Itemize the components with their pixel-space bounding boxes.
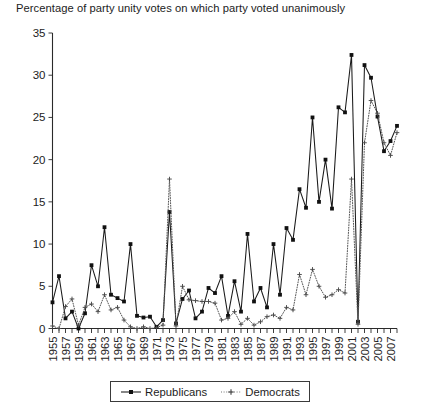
x-tick-label: 2003 xyxy=(359,337,371,362)
legend-label-democrats: Democrats xyxy=(245,386,300,398)
y-axis: 05101520253035 xyxy=(33,27,53,335)
x-tick-label: 1979 xyxy=(203,337,215,362)
data-point-republicans xyxy=(233,279,237,283)
data-point-republicans xyxy=(109,293,113,297)
data-point-republicans xyxy=(311,116,315,120)
data-point-democrats xyxy=(102,292,107,297)
data-point-republicans xyxy=(187,289,191,293)
x-tick-label: 1995 xyxy=(307,337,319,362)
x-tick-label: 1987 xyxy=(255,337,267,362)
data-point-democrats xyxy=(310,267,315,272)
chart-plot-area: 05101520253035 1955195719591961196319651… xyxy=(0,0,421,413)
data-point-republicans xyxy=(207,286,211,290)
data-point-democrats xyxy=(161,323,166,328)
x-tick-label: 1975 xyxy=(177,337,189,362)
y-tick-label: 25 xyxy=(33,111,46,123)
data-point-republicans xyxy=(96,284,100,288)
data-point-republicans xyxy=(389,139,393,143)
x-tick-label: 1963 xyxy=(99,337,111,362)
data-point-republicans xyxy=(239,310,243,314)
data-point-democrats xyxy=(167,177,172,182)
x-tick-label: 2005 xyxy=(372,337,384,362)
data-point-republicans xyxy=(350,53,354,57)
x-tick-label: 1961 xyxy=(86,337,98,362)
data-point-democrats xyxy=(323,295,328,300)
x-tick-label: 1985 xyxy=(242,337,254,362)
data-point-republicans xyxy=(181,297,185,301)
y-tick-label: 10 xyxy=(33,238,46,250)
data-point-democrats xyxy=(369,98,374,103)
data-point-republicans xyxy=(317,200,321,204)
x-tick-label: 2007 xyxy=(385,337,397,362)
x-tick-label: 1967 xyxy=(125,337,137,362)
x-tick-label: 1993 xyxy=(294,337,306,362)
data-point-republicans xyxy=(90,263,94,267)
data-point-democrats xyxy=(180,284,185,289)
data-point-democrats xyxy=(200,299,205,304)
data-point-democrats xyxy=(148,326,153,331)
data-point-democrats xyxy=(135,326,140,331)
x-tick-label: 1989 xyxy=(268,337,280,362)
data-point-democrats xyxy=(271,313,276,318)
data-point-republicans xyxy=(148,315,152,319)
data-point-republicans xyxy=(298,187,302,191)
data-point-republicans xyxy=(51,300,55,304)
data-point-republicans xyxy=(337,105,341,109)
data-point-republicans xyxy=(343,110,347,114)
x-tick-label: 1973 xyxy=(164,337,176,362)
legend-item-democrats: Democrats xyxy=(220,386,300,398)
data-point-republicans xyxy=(103,225,107,229)
data-point-republicans xyxy=(382,149,386,153)
data-point-democrats xyxy=(304,292,309,297)
data-point-democrats xyxy=(278,316,283,321)
y-tick-label: 30 xyxy=(33,69,46,81)
y-tick-label: 0 xyxy=(39,323,45,335)
data-point-democrats xyxy=(291,308,296,313)
data-point-republicans xyxy=(116,296,120,300)
x-tick-label: 1965 xyxy=(112,337,124,362)
legend-label-republicans: Republicans xyxy=(145,386,207,398)
x-tick-label: 1969 xyxy=(138,337,150,362)
legend-marker-democrats-icon xyxy=(220,387,242,397)
data-point-republicans xyxy=(285,226,289,230)
data-point-republicans xyxy=(70,310,74,314)
data-point-republicans xyxy=(200,310,204,314)
x-tick-label: 1959 xyxy=(73,337,85,362)
data-point-republicans xyxy=(369,76,373,80)
data-point-republicans xyxy=(213,291,217,295)
data-point-republicans xyxy=(330,207,334,211)
x-tick-label: 2001 xyxy=(346,337,358,362)
data-point-republicans xyxy=(395,124,399,128)
legend-marker-republicans-icon xyxy=(120,387,142,397)
data-point-democrats xyxy=(388,153,393,158)
data-point-democrats xyxy=(89,302,94,307)
data-point-democrats xyxy=(109,308,114,313)
x-tick-label: 1999 xyxy=(333,337,345,362)
data-point-democrats xyxy=(57,326,62,331)
data-point-democrats xyxy=(213,301,218,306)
data-point-democrats xyxy=(206,299,211,304)
data-point-democrats xyxy=(193,298,198,303)
data-point-republicans xyxy=(64,316,68,320)
data-point-democrats xyxy=(83,305,88,310)
x-tick-label: 1957 xyxy=(60,337,72,362)
data-point-republicans xyxy=(57,274,61,278)
y-tick-label: 20 xyxy=(33,154,46,166)
data-point-democrats xyxy=(349,177,354,182)
x-axis: 1955195719591961196319651967196919711973… xyxy=(47,329,398,362)
x-tick-label: 1971 xyxy=(151,337,163,362)
data-point-republicans xyxy=(246,232,250,236)
y-tick-label: 5 xyxy=(39,280,45,292)
data-point-republicans xyxy=(252,300,256,304)
data-series xyxy=(50,53,399,331)
x-tick-label: 1997 xyxy=(320,337,332,362)
x-tick-label: 1983 xyxy=(229,337,241,362)
data-point-democrats xyxy=(297,272,302,277)
data-point-republicans xyxy=(363,63,367,67)
data-point-republicans xyxy=(278,293,282,297)
data-point-democrats xyxy=(317,284,322,289)
data-point-republicans xyxy=(122,300,126,304)
data-point-democrats xyxy=(343,291,348,296)
chart-figure: Percentage of party unity votes on which… xyxy=(0,0,421,413)
data-point-republicans xyxy=(259,286,263,290)
